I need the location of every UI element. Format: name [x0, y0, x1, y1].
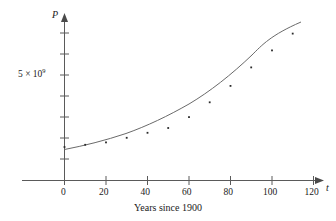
x-tick-label-40: 40 — [141, 188, 151, 198]
x-tick-label-60: 60 — [182, 188, 192, 198]
x-tick-label-80: 80 — [224, 188, 234, 198]
plot-canvas — [0, 0, 336, 221]
y-axis-label: P — [52, 10, 58, 20]
y-tick-label-5e9: 5 × 109 — [18, 70, 46, 80]
x-tick-label-120: 120 — [305, 188, 319, 198]
x-tick-label-100: 100 — [263, 188, 277, 198]
x-tick-label-0: 0 — [61, 188, 66, 198]
y-tick-label-mantissa: 5 × 10 — [18, 69, 42, 79]
figure-caption: Years since 1900 — [0, 203, 336, 213]
y-tick-label-exponent: 9 — [42, 67, 45, 74]
data-points — [64, 33, 294, 148]
y-axis-arrow-icon — [61, 13, 68, 22]
x-axis-arrow-icon — [315, 177, 324, 184]
population-growth-figure: P t 5 × 109 0 20 40 60 80 100 120 Years … — [0, 0, 336, 221]
fit-curve — [65, 22, 302, 150]
x-tick-label-20: 20 — [99, 188, 109, 198]
x-axis-label: t — [326, 183, 329, 193]
